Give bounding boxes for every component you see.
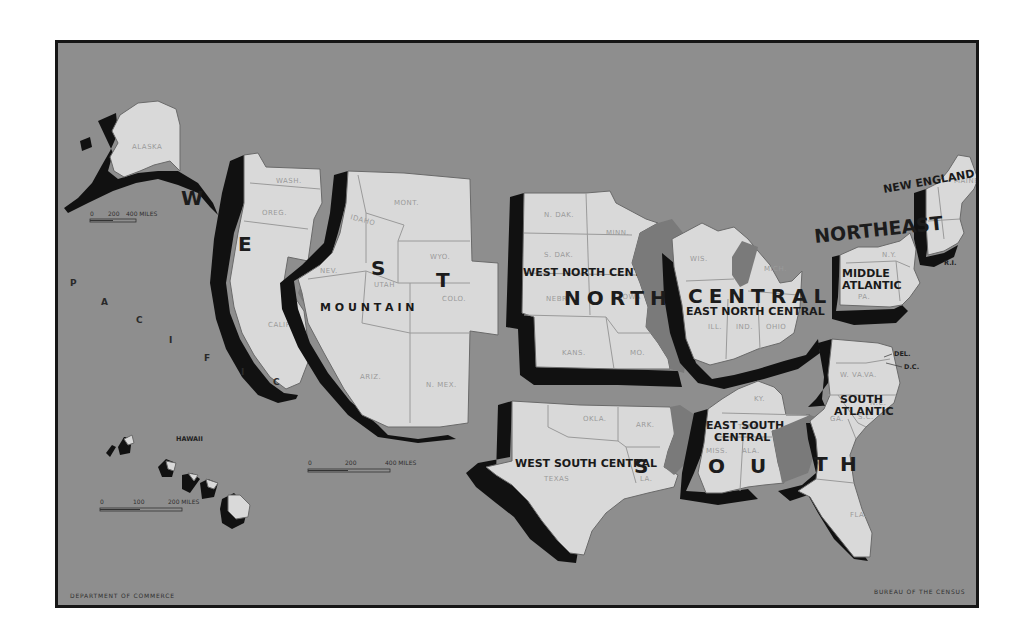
- state-label-del: DEL.: [894, 350, 910, 358]
- svg-text:I: I: [169, 335, 172, 345]
- state-label-ny: N.Y.: [882, 251, 897, 259]
- svg-text:C: C: [136, 315, 143, 325]
- svg-text:200: 200: [345, 459, 357, 466]
- svg-text:0: 0: [308, 459, 312, 466]
- state-label-ariz: ARIZ.: [360, 373, 381, 381]
- svg-text:E: E: [238, 232, 258, 256]
- region-label-north: NORTH: [564, 286, 673, 310]
- division-label-middle-atlantic-line2: ATLANTIC: [842, 279, 902, 292]
- state-label-texas: TEXAS: [543, 475, 569, 483]
- state-label-wash: WASH.: [276, 177, 302, 185]
- state-label-oreg: OREG.: [262, 209, 287, 217]
- region-label-central: CENTRAL: [688, 284, 832, 308]
- state-label-ohio: OHIO: [766, 323, 786, 331]
- state-label-okla: OKLA.: [583, 415, 607, 423]
- state-label-dc: D.C.: [904, 363, 919, 371]
- division-label-east-south-central-line2: CENTRAL: [714, 431, 770, 444]
- footer-bureau-of-the-census: BUREAU OF THE CENSUS: [874, 588, 965, 595]
- state-label-utah: UTAH: [374, 281, 395, 289]
- svg-text:0: 0: [100, 498, 104, 505]
- state-label-ndak: N. DAK.: [544, 211, 574, 219]
- svg-text:W: W: [181, 186, 209, 210]
- svg-text:U: U: [750, 454, 772, 478]
- svg-text:O: O: [708, 454, 731, 478]
- svg-text:100: 100: [133, 498, 145, 505]
- map-canvas: ALASKA 0 200 400 MILES WASH. OREG. CALIF…: [58, 43, 976, 605]
- state-label-fla: FLA.: [850, 511, 867, 519]
- state-label-ri: R.I.: [944, 259, 956, 267]
- state-label-colo: COLO.: [442, 295, 466, 303]
- scale-bar-alaska: 0 200 400 MILES: [90, 210, 157, 222]
- svg-text:0: 0: [90, 210, 94, 217]
- state-label-pa: PA.: [858, 293, 870, 301]
- svg-text:P: P: [70, 278, 77, 288]
- svg-text:C: C: [273, 377, 280, 387]
- state-label-kans: KANS.: [562, 349, 586, 357]
- division-label-mountain: M O U N T A I N: [320, 301, 415, 314]
- state-label-ind: IND.: [736, 323, 753, 331]
- middle-atlantic-division: N.Y. PA. MIDDLE ATLANTIC: [832, 233, 920, 325]
- state-label-hawaii: HAWAII: [176, 435, 203, 443]
- state-label-wyo: WYO.: [430, 253, 450, 261]
- state-label-wis: WIS.: [690, 255, 708, 263]
- state-label-nev: NEV.: [320, 267, 338, 275]
- state-label-va: VA.: [864, 371, 877, 379]
- hawaii: HAWAII: [106, 435, 250, 529]
- state-label-ill: ILL.: [708, 323, 722, 331]
- state-label-nmex: N. MEX.: [426, 381, 457, 389]
- state-label-mont: MONT.: [394, 199, 419, 207]
- svg-text:400 MILES: 400 MILES: [126, 210, 157, 217]
- svg-text:F: F: [204, 353, 210, 363]
- scale-bar-conus: 0 200 400 MILES: [308, 459, 416, 472]
- svg-text:T: T: [814, 452, 834, 476]
- svg-text:200 MILES: 200 MILES: [168, 498, 199, 505]
- state-label-sdak: S. DAK.: [544, 251, 573, 259]
- footer-department-of-commerce: DEPARTMENT OF COMMERCE: [70, 592, 175, 599]
- west-south-central-division: OKLA. ARK. TEXAS LA. WEST SOUTH CENTRAL: [466, 401, 678, 563]
- state-label-mo: MO.: [630, 349, 645, 357]
- svg-text:A: A: [101, 297, 108, 307]
- state-label-ark: ARK.: [636, 421, 654, 429]
- census-regions-map: ALASKA 0 200 400 MILES WASH. OREG. CALIF…: [55, 40, 979, 608]
- svg-text:T: T: [436, 268, 456, 292]
- svg-text:S: S: [371, 256, 391, 280]
- state-label-minn: MINN.: [606, 229, 629, 237]
- state-label-alaska: ALASKA: [132, 143, 162, 151]
- scale-bar-hawaii: 0 100 200 MILES: [100, 498, 199, 511]
- svg-text:200: 200: [108, 210, 120, 217]
- division-label-south-atlantic-line2: ATLANTIC: [834, 405, 894, 418]
- state-label-mich: MICH.: [764, 265, 787, 273]
- state-label-ky: KY.: [754, 395, 765, 403]
- svg-text:S: S: [634, 454, 654, 478]
- state-label-wva: W. VA.: [840, 371, 865, 379]
- svg-text:400 MILES: 400 MILES: [385, 459, 416, 466]
- svg-text:I: I: [241, 367, 244, 377]
- svg-text:H: H: [840, 452, 863, 476]
